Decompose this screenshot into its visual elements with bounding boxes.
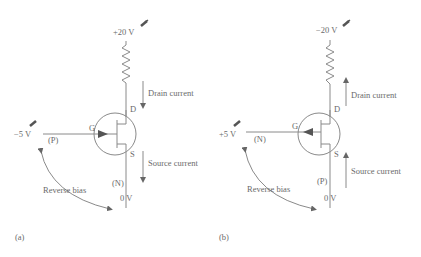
gate-region-label: (N) [254, 134, 266, 144]
source-current-label: Source current [148, 158, 198, 168]
resistor [122, 45, 130, 83]
resistor [326, 45, 334, 84]
ground-voltage-label: 0 V [120, 193, 133, 203]
ground-voltage-label: 0 V [324, 193, 337, 203]
probe-icon [30, 121, 36, 126]
gate-voltage-label: +5 V [219, 129, 237, 139]
supply-voltage-label: −20 V [316, 25, 338, 35]
drain-label: D [334, 104, 340, 114]
gate-region-label: (P) [48, 135, 59, 145]
probe-icon [343, 20, 350, 26]
reverse-bias-label: Reverse bias [43, 185, 86, 195]
drain-current-label: Drain current [148, 88, 194, 98]
panel-b: −20 V G D S +5 V (N) (P) 0 V Drain curre… [219, 20, 401, 242]
source-label: S [334, 149, 339, 159]
gate-arrow-icon [303, 128, 313, 136]
probe-icon [141, 20, 148, 26]
drain-current-label: Drain current [351, 90, 397, 100]
supply-voltage-label: +20 V [113, 27, 135, 37]
channel-region-label: (N) [112, 178, 124, 188]
gate-arrow-icon [98, 130, 108, 138]
panel-a: +20 V G D S −5 V (P) (N) 0 V Drain curre… [14, 20, 198, 242]
gate-voltage-label: −5 V [14, 129, 32, 139]
channel-region-label: (P) [317, 176, 328, 186]
gate-label: G [89, 123, 95, 133]
drain-label: D [130, 104, 136, 114]
drain-lead [117, 110, 126, 124]
drain-lead [321, 110, 330, 124]
gate-label: G [292, 121, 298, 131]
probe-icon [234, 121, 240, 126]
reverse-bias-arrow-icon [245, 150, 314, 209]
panel-caption: (a) [15, 232, 25, 242]
jfet-diagram: +20 V G D S −5 V (P) (N) 0 V Drain curre… [0, 0, 421, 257]
source-current-label: Source current [351, 166, 401, 176]
reverse-bias-arrow-icon [41, 151, 110, 209]
reverse-bias-label: Reverse bias [247, 184, 290, 194]
source-label: S [130, 149, 135, 159]
panel-caption: (b) [219, 232, 229, 242]
